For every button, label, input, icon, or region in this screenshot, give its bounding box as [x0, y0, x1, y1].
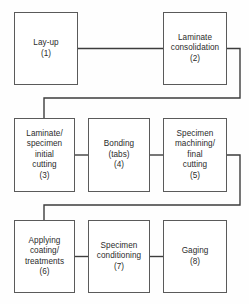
- process-box-label: Specimen: [177, 129, 214, 139]
- process-box-label: Laminate: [178, 33, 212, 43]
- process-box-label: Bonding: [104, 139, 134, 149]
- process-box-label: cutting: [183, 160, 207, 170]
- process-box-7[interactable]: Specimenconditioning(7): [88, 220, 150, 293]
- process-box-label: Laminate/: [26, 129, 62, 139]
- process-box-number: (3): [39, 171, 49, 181]
- process-box-label: Gaging: [182, 246, 209, 256]
- process-box-number: (1): [41, 49, 51, 59]
- process-box-4[interactable]: Bonding(tabs)(4): [88, 118, 150, 192]
- process-box-number: (5): [190, 171, 200, 181]
- process-box-number: (7): [114, 262, 124, 272]
- process-box-5[interactable]: Specimenmachining/finalcutting(5): [163, 118, 227, 192]
- process-box-label: conditioning: [97, 251, 141, 261]
- process-box-number: (6): [39, 267, 49, 277]
- process-box-label: cutting: [32, 160, 56, 170]
- process-box-label: (tabs): [108, 150, 129, 160]
- process-box-number: (4): [114, 160, 124, 170]
- process-box-label: Specimen: [101, 241, 138, 251]
- process-box-number: (8): [190, 257, 200, 267]
- process-box-label: treatments: [25, 257, 64, 267]
- process-box-8[interactable]: Gaging(8): [163, 220, 227, 293]
- process-box-label: Applying: [29, 236, 61, 246]
- process-box-label: consolidation: [171, 43, 219, 53]
- process-box-3[interactable]: Laminate/specimeninitialcutting(3): [14, 118, 75, 192]
- process-box-label: specimen: [27, 139, 62, 149]
- process-box-1[interactable]: Lay-up(1): [14, 12, 78, 85]
- process-flowchart: Lay-up(1)Laminateconsolidation(2)Laminat…: [0, 0, 249, 304]
- process-box-label: initial: [35, 150, 54, 160]
- process-box-label: machining/: [175, 139, 215, 149]
- process-box-label: final: [187, 150, 202, 160]
- process-box-label: coating/: [30, 246, 59, 256]
- process-box-label: Lay-up: [33, 38, 58, 48]
- process-box-number: (2): [190, 54, 200, 64]
- process-box-6[interactable]: Applyingcoating/treatments(6): [14, 220, 75, 293]
- process-box-2[interactable]: Laminateconsolidation(2): [163, 12, 227, 85]
